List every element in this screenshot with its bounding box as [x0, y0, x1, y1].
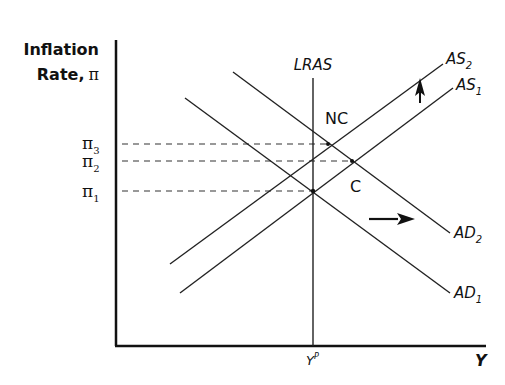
- ad2-curve: [233, 72, 450, 233]
- y-axis-label-pi: π: [88, 65, 99, 84]
- as1-curve: [180, 88, 453, 293]
- as-shift-up-arrow-icon: [415, 78, 425, 103]
- point-c-label: C: [350, 177, 361, 196]
- y-axis-label-line1: Inflation: [23, 40, 99, 59]
- x-tick-yp: YP: [306, 352, 319, 368]
- as1-label: AS1: [455, 76, 482, 97]
- as2-curve: [170, 64, 443, 264]
- y-axis-label-line2: Rate,π: [37, 65, 99, 84]
- y-axis-label-rate: Rate,: [37, 65, 85, 84]
- point-initial: [311, 189, 315, 193]
- ad2-label: AD2: [453, 224, 482, 245]
- ad-shift-right-arrow-icon: [369, 213, 415, 225]
- y-tick-pi1: π1: [82, 181, 100, 204]
- x-axis-label: Y: [475, 351, 488, 370]
- point-nc: [326, 142, 330, 146]
- point-c: [350, 159, 354, 163]
- ad-as-diagram: Inflation Rate,π π3 π2 π1 LRAS AS2 AS1 A…: [0, 0, 505, 385]
- ad1-curve: [185, 98, 450, 293]
- as2-label: AS2: [445, 50, 472, 71]
- lras-label: LRAS: [294, 56, 333, 74]
- point-nc-label: NC: [325, 109, 348, 128]
- ad1-label: AD1: [453, 284, 482, 305]
